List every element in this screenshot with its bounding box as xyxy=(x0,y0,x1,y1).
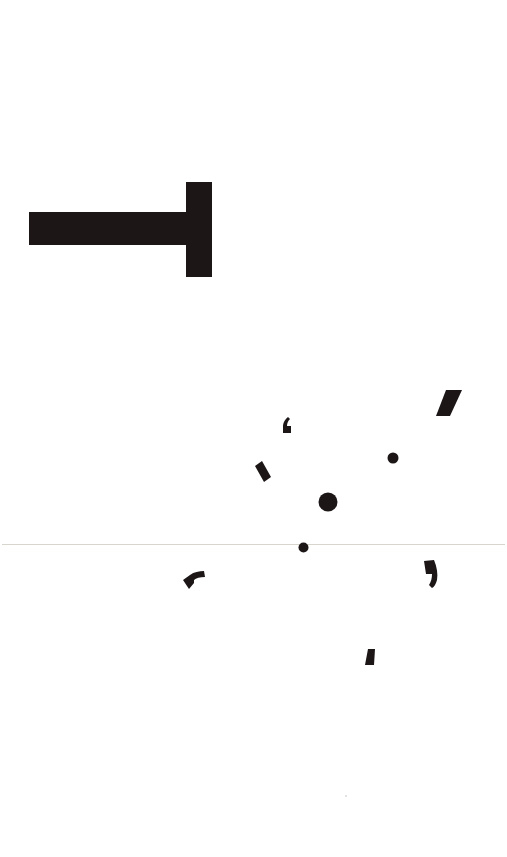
dust-speck xyxy=(345,795,347,797)
glyph-t-bar xyxy=(186,182,212,277)
small-dot xyxy=(387,452,399,464)
dot-on-rule xyxy=(298,542,309,553)
large-dot xyxy=(318,492,338,512)
glyph-t-stem xyxy=(29,212,187,245)
closing-quote-mark xyxy=(421,558,441,590)
slash-mark xyxy=(434,388,464,418)
slanted-block xyxy=(252,459,274,485)
opening-quote-mark xyxy=(281,415,295,437)
curved-fragment xyxy=(181,568,207,592)
scanned-page xyxy=(0,0,507,857)
horizontal-rule xyxy=(2,544,505,545)
small-wedge xyxy=(363,647,377,667)
